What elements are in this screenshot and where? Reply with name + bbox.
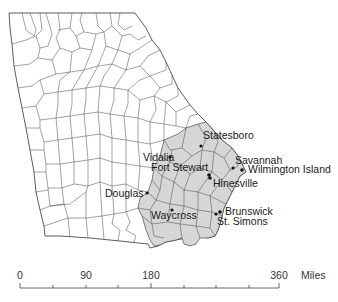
city-dot-savannah (231, 166, 234, 169)
scale-label-180: 180 (142, 270, 160, 281)
scale-unit-label: Miles (301, 270, 326, 281)
city-label-hinesville: Hinesville (213, 178, 258, 189)
city-label-waycross: Waycross (151, 210, 197, 221)
city-dot-wilmington-island (240, 168, 244, 172)
scale-bar (20, 283, 279, 288)
city-dot-douglas (145, 191, 148, 194)
city-label-douglas: Douglas (105, 188, 144, 199)
city-dot-statesboro (199, 144, 202, 147)
city-label-wilmington-island: Wilmington Island (248, 164, 331, 175)
city-label-st-simons: St. Simons (217, 216, 268, 227)
city-label-fort-stewart: Fort Stewart (151, 162, 208, 173)
scale-label-90: 90 (80, 270, 92, 281)
city-dot-brunswick (218, 210, 222, 214)
scale-label-0: 0 (17, 270, 23, 281)
city-dot-hinesville (208, 176, 212, 180)
city-label-statesboro: Statesboro (203, 130, 254, 141)
scale-label-360: 360 (270, 270, 288, 281)
